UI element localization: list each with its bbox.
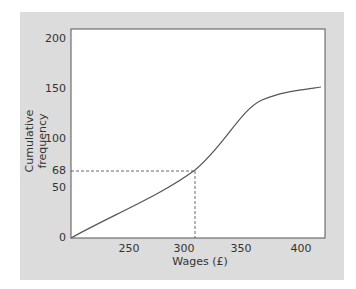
x-tick-label: 300: [169, 243, 199, 255]
x-tick-label: 250: [114, 243, 144, 255]
x-axis-label: Wages (£): [150, 255, 250, 268]
plot-area: [71, 29, 325, 238]
y-tick-label: 0: [36, 232, 66, 244]
x-tick-label: 350: [226, 243, 256, 255]
y-axis-label: Cumulative frequency: [23, 81, 49, 201]
y-tick-label: 200: [36, 33, 66, 45]
x-tick-label: 400: [286, 243, 316, 255]
